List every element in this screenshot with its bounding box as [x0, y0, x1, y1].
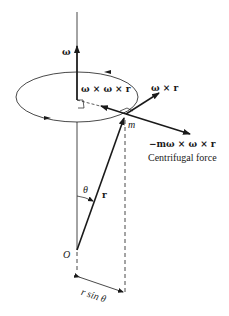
omega-cross-omega-cross-r-label: ω × ω × r	[81, 85, 131, 94]
theta-angle-arc	[77, 196, 93, 201]
mass-label: m	[128, 120, 135, 130]
orbit-direction-arrow-top	[104, 70, 111, 74]
r-vector-label: r	[102, 191, 107, 200]
omega-label: ω	[62, 48, 71, 57]
theta-label: θ	[83, 185, 88, 195]
origin-label: O	[63, 250, 70, 260]
omega-cross-r-label: ω × r	[151, 84, 178, 93]
centrifugal-force-diagram: ω ω × ω × r ω × r m −mω × ω × r Centrifu…	[0, 0, 229, 316]
centrifugal-expression-label: −mω × ω × r	[149, 140, 216, 149]
radius-dashed-line	[77, 100, 100, 106]
tangential-vector-arrow	[126, 93, 159, 114]
centrifugal-force-arrow	[126, 114, 190, 134]
centrifugal-caption-label: Centrifugal force	[148, 153, 217, 163]
